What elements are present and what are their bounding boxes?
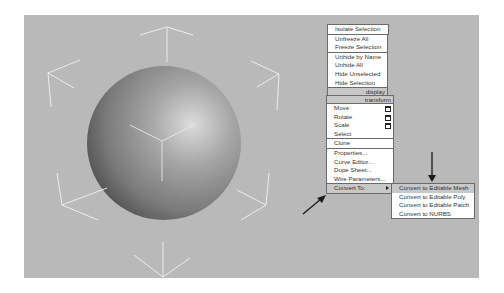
- down-arrow-icon: [428, 152, 436, 182]
- annotation-layer: [0, 0, 504, 293]
- diagonal-arrow-icon: [303, 195, 326, 214]
